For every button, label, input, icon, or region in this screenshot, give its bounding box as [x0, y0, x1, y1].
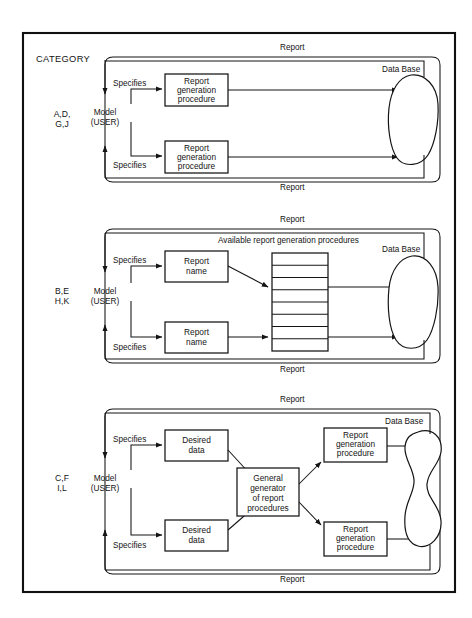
- panel-2-group: Report Report Available report generatio…: [55, 215, 440, 374]
- panel-3-generator-to-rgp-upper: [299, 462, 321, 484]
- panel-3-generator-line3: of report: [253, 493, 285, 503]
- panel-1-box-lower-line3: procedure: [178, 161, 216, 171]
- panel-3-generator-line2: generator: [250, 483, 286, 493]
- panel-3-category-line1: C,F: [55, 473, 69, 483]
- panel-2-report-top-label: Report: [280, 215, 305, 224]
- panel-1-actor-line1: Model: [94, 107, 117, 117]
- panel-1-category-line1: A,D,: [54, 109, 71, 119]
- panel-1-specifies-lower-label: Specifies: [113, 161, 146, 170]
- panel-2-actor-line2: (USER): [91, 296, 120, 306]
- panel-2-category-line2: H,K: [55, 296, 70, 306]
- panel-2-specifies-lower-label: Specifies: [113, 343, 146, 352]
- panel-3-database-label: Data Base: [385, 417, 424, 426]
- panel-1-report-top-line: [105, 61, 424, 77]
- panel-1-report-bottom-line: [105, 155, 424, 178]
- panel-2-stack-title: Available report generation procedures: [218, 236, 359, 245]
- panel-2-database-label: Data Base: [382, 245, 421, 254]
- panel-2-specifies-lower-path: [131, 301, 162, 337]
- panel-3-rgp-lower-line3: procedure: [337, 542, 375, 552]
- panel-3-generator-line1: General: [253, 473, 283, 483]
- panel-2-flow-upper: [228, 266, 268, 287]
- panel-3-rgp-upper-line3: procedure: [337, 448, 375, 458]
- panel-1-specifies-upper-label: Specifies: [113, 79, 146, 88]
- panel-3-report-bottom-label: Report: [280, 575, 305, 584]
- panel-2-specifies-upper-path: [131, 266, 162, 283]
- frame-category-label: CATEGORY: [36, 54, 90, 64]
- panel-3-category-line2: I,L: [57, 483, 67, 493]
- panel-3-specifies-upper-path: [131, 445, 162, 470]
- panel-2-box-lower-line1: Report: [184, 327, 210, 337]
- panel-1-database-blob: [388, 75, 438, 165]
- panel-1-database-label: Data Base: [382, 65, 421, 74]
- panel-1-specifies-upper-path: [131, 89, 162, 104]
- panel-3-generator-line4: procedures: [247, 503, 289, 513]
- panel-3-desired-lower-line1: Desired: [182, 525, 211, 535]
- panel-1-actor-line2: (USER): [91, 117, 120, 127]
- panel-3-desired-upper-line2: data: [188, 445, 205, 455]
- panel-2-specifies-upper-label: Specifies: [113, 256, 146, 265]
- panel-2-database-blob: [388, 256, 438, 348]
- panel-3-actor-line2: (USER): [91, 483, 120, 493]
- panel-2-category-line1: B,E: [55, 286, 69, 296]
- panel-3-generator-to-rgp-lower: [299, 502, 321, 525]
- panel-3-specifies-lower-path: [131, 488, 162, 535]
- panel-1-report-bottom-label: Report: [280, 183, 305, 192]
- panel-3-actor-line1: Model: [94, 473, 117, 483]
- diagram-canvas: Report Report Data Base Specifies Specif…: [0, 0, 472, 618]
- panel-3-report-top-label: Report: [280, 395, 305, 404]
- panel-2-box-upper-line1: Report: [184, 256, 210, 266]
- panel-1-group: Report Report Data Base Specifies Specif…: [36, 43, 440, 192]
- panel-3-specifies-upper-label: Specifies: [113, 435, 146, 444]
- figure-root: Report Report Data Base Specifies Specif…: [0, 0, 472, 618]
- panel-3-specifies-lower-label: Specifies: [113, 541, 146, 550]
- panel-1-specifies-lower-path: [131, 122, 162, 156]
- panel-1-report-top-label: Report: [280, 43, 305, 52]
- panel-1-category-line2: G,J: [55, 119, 68, 129]
- panel-3-database-blob: [405, 431, 441, 547]
- panel-2-box-upper-line2: name: [186, 266, 207, 276]
- panel-3-desired-lower-line2: data: [188, 535, 205, 545]
- panel-3-group: Report Report Data Base Specifies Specif…: [55, 395, 441, 584]
- panel-2-actor-line1: Model: [94, 286, 117, 296]
- panel-2-box-lower-line2: name: [186, 337, 207, 347]
- panel-2-report-bottom-label: Report: [280, 365, 305, 374]
- panel-2-report-bottom-line: [105, 340, 424, 359]
- panel-3-desired-upper-line1: Desired: [182, 435, 211, 445]
- panel-1-box-upper-line3: procedure: [178, 94, 216, 104]
